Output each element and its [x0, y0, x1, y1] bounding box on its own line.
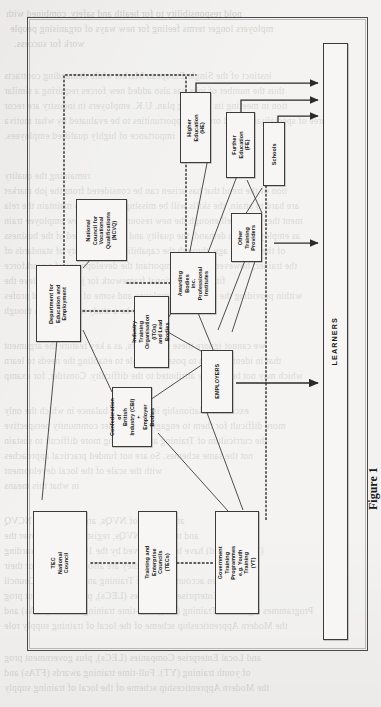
node-learners[interactable]: LEARNERS [323, 43, 348, 640]
node-tec-national-council[interactable]: TEC National Council [33, 511, 87, 614]
node-label: LEARNERS [332, 317, 339, 365]
node-label: Schools [271, 143, 278, 165]
node-label: Higher Education (HE) [186, 113, 206, 142]
node-label: Industry Training Organisation (ITOs) an… [132, 315, 172, 349]
node-label: Awarding Bodies inc. Professional Instit… [177, 261, 210, 305]
node-ncvq[interactable]: National Council for Vocational Qualific… [76, 199, 127, 261]
node-tecs[interactable]: Training and Enterprise Councils (TECs) [138, 511, 177, 614]
node-label: Further Education (FE) [231, 132, 251, 159]
node-label: Government Training Programmes e.g. Yout… [217, 542, 257, 584]
node-further-education[interactable]: Further Education (FE) [226, 112, 255, 178]
node-itos[interactable]: Industry Training Organisation (ITOs) an… [134, 296, 169, 368]
node-label: EMPLOYERS [214, 364, 221, 399]
node-label: Training and Enterprise Councils (TECs) [144, 544, 170, 581]
node-label: Department for Education and Employment [49, 283, 69, 323]
node-label: Other Training Providers [237, 225, 257, 251]
node-higher-education[interactable]: Higher Education (HE) [180, 92, 211, 163]
node-dfee[interactable]: Department for Education and Employment [36, 265, 81, 342]
node-label: National Council for Vocational Qualific… [85, 211, 118, 248]
node-employers[interactable]: EMPLOYERS [201, 350, 233, 413]
node-government-training-programmes[interactable]: Government Training Programmes e.g. Yout… [215, 511, 259, 614]
node-awarding-bodies[interactable]: Awarding Bodies inc. Professional Instit… [170, 252, 216, 314]
node-label: TEC National Council [50, 551, 70, 573]
node-cbi[interactable]: Confederation of British Industry (CBI) … [112, 387, 152, 447]
node-other-training-providers[interactable]: Other Training Providers [231, 213, 262, 262]
node-label: Confederation of British Industry (CBI) … [109, 398, 155, 436]
node-schools[interactable]: Schools [263, 122, 285, 186]
figure-caption: Figure 1 [366, 467, 381, 510]
